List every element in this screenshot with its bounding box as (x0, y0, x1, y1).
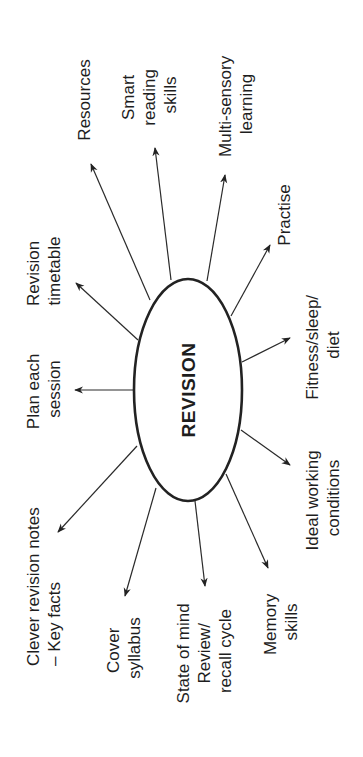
label-ideal-working: Ideal working conditions (303, 446, 343, 551)
label-memory: Memory skills (261, 589, 301, 655)
arrow-resources (91, 164, 150, 300)
label-practise: Practise (275, 184, 294, 245)
label-fitness: Fitness/sleep/ diet (303, 290, 343, 400)
arrow-fitness (242, 338, 290, 362)
revision-mind-map: REVISION Resources Smart reading skills … (0, 0, 363, 757)
label-plan-session: Plan each session (24, 349, 64, 429)
label-cover-syllabus: Cover syllabus (104, 617, 144, 678)
arrow-smart-reading (155, 148, 171, 280)
arrow-clever-notes (58, 446, 137, 532)
arrow-cover-syllabus (125, 488, 156, 596)
label-resources: Resources (75, 59, 94, 140)
arrow-state-of-mind (195, 501, 205, 586)
arrow-revision-timetable (76, 283, 138, 340)
label-state-of-mind: State of mind Review/ recall cycle (174, 599, 235, 704)
label-revision-timetable: Revision timetable (24, 236, 64, 306)
label-clever-notes: Clever revision notes – Key facts (24, 503, 64, 666)
arrow-memory (226, 474, 268, 568)
center-label: REVISION (178, 343, 199, 438)
label-smart-reading: Smart reading skills (119, 64, 180, 125)
arrow-practise (231, 245, 270, 316)
label-multi-sensory: Multi-sensory learning (216, 51, 256, 157)
arrow-ideal-working (241, 430, 290, 465)
arrow-multi-sensory (207, 175, 225, 281)
